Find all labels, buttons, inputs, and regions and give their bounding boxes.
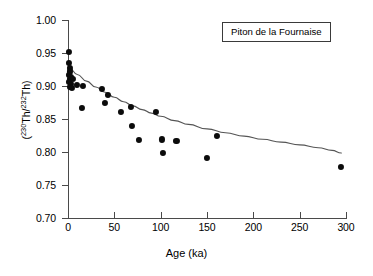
x-tick-label: 0 xyxy=(48,222,88,233)
y-tick xyxy=(62,119,68,120)
y-tick-label: 0.75 xyxy=(16,180,56,191)
x-tick-label: 150 xyxy=(187,222,227,233)
y-tick xyxy=(62,152,68,153)
x-tick xyxy=(114,212,115,219)
x-tick-label: 100 xyxy=(141,222,181,233)
x-axis-label: Age (ka) xyxy=(0,247,373,259)
legend-label: Piton de la Fournaise xyxy=(231,26,322,37)
y-axis-label: (230Th/232Th) xyxy=(20,40,32,180)
plot-area xyxy=(68,20,346,218)
figure-root: 0.700.750.800.850.900.951.00 05010015020… xyxy=(0,0,373,276)
x-tick xyxy=(207,212,208,219)
x-tick xyxy=(300,212,301,219)
legend-box: Piton de la Fournaise xyxy=(222,22,331,42)
y-tick xyxy=(62,185,68,186)
y-tick-label: 1.00 xyxy=(16,15,56,26)
x-tick-label: 300 xyxy=(326,222,366,233)
x-tick-label: 200 xyxy=(233,222,273,233)
x-tick xyxy=(253,212,254,219)
y-tick xyxy=(62,20,68,21)
x-tick xyxy=(68,212,69,219)
x-tick-label: 50 xyxy=(94,222,134,233)
x-tick-label: 250 xyxy=(280,222,320,233)
x-tick xyxy=(161,212,162,219)
y-axis-label-text: (230Th/232Th) xyxy=(20,80,32,139)
x-tick xyxy=(346,212,347,219)
